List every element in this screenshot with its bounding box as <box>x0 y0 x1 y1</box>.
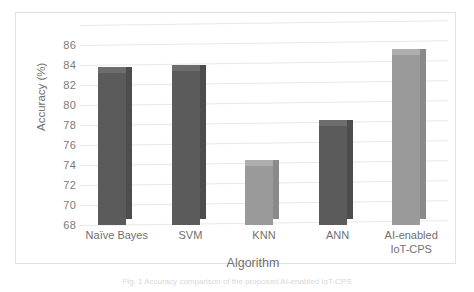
bar-front-face <box>245 166 273 225</box>
bar-side-face <box>347 120 353 219</box>
x-axis-category-label: SVM <box>154 229 228 243</box>
bar-slot <box>301 45 375 225</box>
x-axis-title: Algorithm <box>16 256 474 270</box>
x-axis-category-label-line: KNN <box>227 229 301 243</box>
figure-container: Accuracy (%) 68707274767880828486 Naïve … <box>0 0 474 292</box>
x-axis-category-label-line: ANN <box>301 229 375 243</box>
y-axis-tick-label: 82 <box>63 79 76 91</box>
y-axis-tick-label: 84 <box>63 59 76 71</box>
bar-top-face <box>172 65 200 71</box>
y-axis-tick-label: 78 <box>63 119 76 131</box>
bar-side-face <box>420 49 426 219</box>
x-axis-category-label-line: Naïve Bayes <box>80 229 154 243</box>
bar-side-face <box>273 160 279 219</box>
y-axis-tick-label: 86 <box>63 39 76 51</box>
x-axis-category-label-line: SVM <box>154 229 228 243</box>
bar-side-face <box>126 67 132 219</box>
x-axis-category-label-line: IoT-CPS <box>374 243 448 257</box>
x-axis-category-label: ANN <box>301 229 375 243</box>
chart-frame: Accuracy (%) 68707274767880828486 Naïve … <box>15 12 456 264</box>
bar[interactable] <box>172 65 200 225</box>
y-axis-tick-label: 74 <box>63 159 76 171</box>
y-axis-tick-label: 70 <box>63 199 76 211</box>
gridline <box>80 20 448 26</box>
bar[interactable] <box>319 120 347 225</box>
bar[interactable] <box>98 67 126 225</box>
y-axis-tick-label: 80 <box>63 99 76 111</box>
bar-front-face <box>392 55 420 225</box>
plot-area <box>80 45 448 225</box>
bar-top-face <box>98 67 126 73</box>
bar-side-face <box>200 65 206 219</box>
figure-caption: Fig. 1 Accuracy comparison of the propos… <box>0 277 474 286</box>
bar-front-face <box>98 73 126 225</box>
y-axis-tick-label: 68 <box>63 219 76 231</box>
bar-top-face <box>245 160 273 166</box>
bar-series <box>80 45 448 225</box>
y-axis-tick-labels: 68707274767880828486 <box>50 45 76 225</box>
y-axis-title: Accuracy (%) <box>35 63 47 131</box>
bar-slot <box>374 45 448 225</box>
x-axis-category-label: AI-enabledIoT-CPS <box>374 229 448 256</box>
bar[interactable] <box>245 160 273 225</box>
x-axis-category-label: Naïve Bayes <box>80 229 154 243</box>
x-axis-category-label: KNN <box>227 229 301 243</box>
bar-slot <box>154 45 228 225</box>
bar-front-face <box>172 71 200 225</box>
bar[interactable] <box>392 49 420 225</box>
x-axis-category-label-line: AI-enabled <box>374 229 448 243</box>
bar-top-face <box>319 120 347 126</box>
y-axis-tick-label: 76 <box>63 139 76 151</box>
bar-top-face <box>392 49 420 55</box>
bar-slot <box>80 45 154 225</box>
bar-slot <box>227 45 301 225</box>
bar-front-face <box>319 126 347 225</box>
y-axis-tick-label: 72 <box>63 179 76 191</box>
